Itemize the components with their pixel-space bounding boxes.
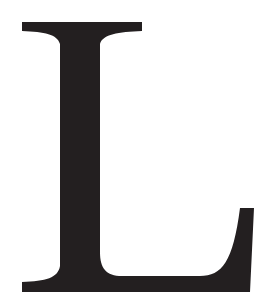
letter-l-glyph bbox=[0, 0, 272, 307]
letter-canvas: L bbox=[0, 0, 272, 307]
letter-l-shape bbox=[22, 22, 254, 292]
